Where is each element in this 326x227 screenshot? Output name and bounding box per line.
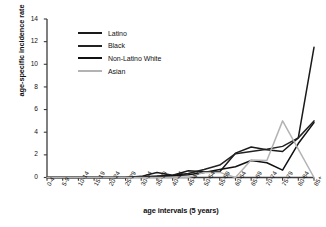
legend-label: Asian xyxy=(108,68,125,75)
legend-label: Non-Latino White xyxy=(108,55,161,62)
series-line-asian xyxy=(47,121,314,178)
y-tick-label-0: 0 xyxy=(22,174,38,181)
y-tick-label-4: 4 xyxy=(22,129,38,136)
y-tick-label-14: 14 xyxy=(22,16,38,23)
legend-swatch-icon xyxy=(78,57,102,59)
legend-swatch-icon xyxy=(78,32,102,34)
y-tick-label-8: 8 xyxy=(22,84,38,91)
y-tick-label-10: 10 xyxy=(22,61,38,68)
legend-item-black: Black xyxy=(78,40,161,53)
legend-label: Black xyxy=(108,42,125,49)
chart-container: age-specific incidence rate 02468101214 … xyxy=(0,0,326,227)
legend-item-non-latino-white: Non-Latino White xyxy=(78,52,161,65)
y-tick-label-6: 6 xyxy=(22,106,38,113)
series-line-black xyxy=(47,121,314,178)
y-tick-label-2: 2 xyxy=(22,151,38,158)
legend-item-latino: Latino xyxy=(78,27,161,40)
legend-swatch-icon xyxy=(78,45,102,47)
x-axis-title: age intervals (5 years) xyxy=(47,206,315,215)
y-tick-label-12: 12 xyxy=(22,38,38,45)
legend-label: Latino xyxy=(108,30,127,37)
legend-swatch-icon xyxy=(78,70,102,72)
chart-legend: LatinoBlackNon-Latino WhiteAsian xyxy=(78,27,161,77)
legend-item-asian: Asian xyxy=(78,65,161,78)
plot-area xyxy=(0,0,326,227)
